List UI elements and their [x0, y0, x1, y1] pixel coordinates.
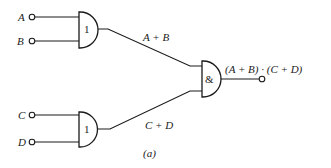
gate-symbol-and: &: [205, 73, 214, 85]
gate-symbol-or1: 1: [84, 23, 90, 35]
input-label-c: C: [18, 109, 26, 121]
input-label-d: D: [17, 136, 26, 148]
input-pin-c: [29, 112, 35, 118]
input-pin-b: [29, 38, 35, 44]
or-gate-ab: A B 1: [17, 11, 98, 48]
figure-caption: (a): [143, 147, 156, 160]
logic-diagram: A B 1 C D 1 A + B C + D & (A + B) · (C +…: [0, 0, 331, 168]
input-label-b: B: [17, 35, 24, 47]
and-gate: & (A + B) · (C + D): [202, 61, 303, 97]
output-pin: [259, 76, 265, 82]
input-label-a: A: [17, 11, 25, 23]
gate-symbol-or2: 1: [84, 123, 90, 135]
input-pin-a: [29, 14, 35, 20]
label-c-plus-d: C + D: [145, 119, 173, 131]
input-pin-d: [29, 139, 35, 145]
label-a-plus-b: A + B: [142, 31, 169, 43]
output-label: (A + B) · (C + D): [225, 63, 303, 76]
or-gate-cd: C D 1: [17, 109, 97, 148]
